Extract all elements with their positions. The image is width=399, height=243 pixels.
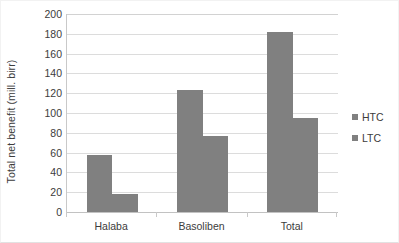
y-axis-tick-label: 20 [26, 186, 62, 198]
y-axis-tick-label: 180 [26, 28, 62, 40]
legend-label: HTC [362, 111, 384, 123]
category-label-basoliben: Basoliben [178, 220, 224, 232]
y-axis-tick-label: 160 [26, 48, 62, 60]
plot-area [66, 14, 338, 212]
legend-item-htc[interactable]: HTC [352, 106, 397, 127]
category-axis-labels: HalabaBasolibenTotal [66, 220, 337, 236]
bar-htc-halaba [87, 155, 113, 212]
bar-htc-basoliben [177, 90, 203, 212]
category-axis-tick [336, 212, 337, 217]
chart-legend: HTCLTC [352, 106, 397, 148]
y-axis-title: Total net benefit (mill. birr) [0, 0, 22, 243]
y-axis-tick-label: 40 [26, 166, 62, 178]
y-axis-tick-label: 100 [26, 107, 62, 119]
y-axis-tick-label: 200 [26, 8, 62, 20]
bar-ltc-basoliben [203, 136, 229, 212]
category-axis-ticks [66, 212, 337, 218]
bar-ltc-halaba [112, 194, 138, 212]
y-axis-tick-label: 0 [26, 206, 62, 218]
legend-item-ltc[interactable]: LTC [352, 127, 397, 148]
bar-chart-figure: Total net benefit (mill. birr) 200180160… [0, 0, 399, 243]
y-axis-tick-label: 80 [26, 127, 62, 139]
bar-ltc-total [293, 118, 319, 212]
category-axis-tick [156, 212, 157, 217]
legend-label: LTC [362, 132, 381, 144]
y-axis-tick-label: 120 [26, 87, 62, 99]
y-axis-tick-labels: 200180160140120100806040200 [26, 8, 62, 216]
y-axis-tick-label: 60 [26, 147, 62, 159]
y-axis-tick-label: 140 [26, 67, 62, 79]
legend-swatch-icon [352, 114, 358, 120]
bars-layer [67, 14, 338, 212]
category-axis-tick [66, 212, 67, 217]
category-axis-tick [247, 212, 248, 217]
legend-swatch-icon [352, 135, 358, 141]
category-label-halaba: Halaba [95, 220, 128, 232]
bar-htc-total [267, 32, 293, 212]
category-label-total: Total [281, 220, 303, 232]
